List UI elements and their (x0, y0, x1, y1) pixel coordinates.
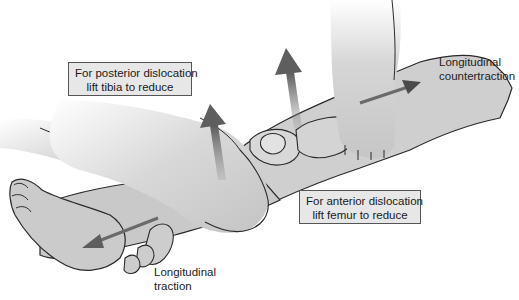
countertraction-label: Longitudinal countertraction (439, 55, 515, 83)
traction-label-line2: traction (154, 279, 216, 293)
posterior-callout-line2: lift tibia to reduce (75, 80, 185, 94)
traction-label: Longitudinal traction (154, 265, 216, 293)
traction-label-line1: Longitudinal (154, 265, 216, 279)
countertraction-label-line1: Longitudinal (439, 55, 515, 69)
lift-femur-arrow (275, 48, 302, 128)
examiner-upper-arm (330, 0, 401, 160)
posterior-callout-line1: For posterior dislocation (75, 66, 185, 80)
knee-reduction-illustration (0, 0, 519, 300)
posterior-dislocation-callout: For posterior dislocation lift tibia to … (68, 62, 192, 96)
countertraction-label-line2: countertraction (439, 69, 515, 83)
anterior-callout-line1: For anterior dislocation (306, 194, 414, 208)
anterior-dislocation-callout: For anterior dislocation lift femur to r… (299, 190, 421, 224)
anterior-callout-line2: lift femur to reduce (306, 208, 414, 222)
